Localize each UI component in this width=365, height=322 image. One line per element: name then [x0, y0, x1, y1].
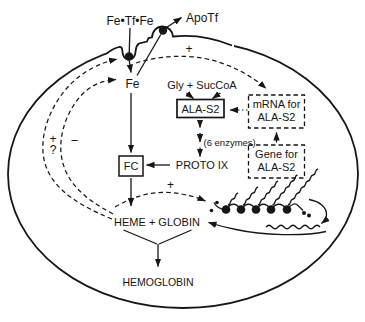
nascent-chain-2: [243, 187, 258, 205]
minus-sign-iron: −: [71, 133, 79, 148]
heme-globin-label: HEME + GLOBIN: [114, 216, 200, 228]
ribosome-dot-5: [283, 205, 292, 214]
precursors-label: Gly + SucCoA: [167, 79, 237, 91]
heme-dot-left-1: [210, 209, 214, 213]
gene-box-label-line2: ALA-S2: [258, 161, 296, 173]
ribosome-dot-1: [222, 205, 231, 214]
nascent-chain-1: [228, 193, 238, 205]
globin-return-arrow: [209, 223, 327, 235]
plus-sign-translation: +: [167, 178, 174, 192]
released-globin-squiggle: [266, 225, 320, 229]
substrate-arrow-right: [213, 93, 221, 99]
globin-release-arrow: [309, 200, 327, 224]
transferrin-receptor-exit-dot: [159, 26, 167, 34]
heme-to-translation-curve: [115, 192, 206, 207]
combine-line-left: [124, 230, 158, 244]
fc-label: FC: [124, 160, 139, 172]
gene-box-label-line1: Gene for: [255, 148, 298, 160]
heme-dot-right-1: [302, 211, 306, 215]
transferrin-receptor-pit-dot: [125, 52, 133, 60]
query-sign-uptake: ?: [50, 143, 57, 157]
ribosome-dot-4: [267, 205, 276, 214]
proto-ix-label: PROTO IX: [176, 159, 229, 171]
mrna-box-label-line2: ALA-S2: [258, 111, 296, 123]
figure-canvas: Fe•Tf•Fe ApoTf Fe + Gly + SucCoA ALA-S2 …: [0, 0, 365, 322]
hemoglobin-label: HEMOGLOBIN: [122, 276, 193, 288]
apo-transferrin-label: ApoTf: [186, 11, 219, 25]
ribosome-dot-3: [252, 205, 261, 214]
holo-transferrin-label: Fe•Tf•Fe: [106, 14, 153, 28]
ribosome-dot-2: [237, 205, 246, 214]
heme-dot-right-2: [307, 214, 311, 218]
plus-sign-mrna: +: [185, 42, 192, 56]
nascent-chain-4: [273, 175, 298, 205]
iron-label: Fe: [125, 77, 139, 91]
six-enzymes-label: (6 enzymes): [204, 137, 256, 148]
alas2-label: ALA-S2: [182, 103, 220, 115]
substrate-arrow-left: [187, 93, 194, 99]
combine-line-right: [159, 230, 192, 244]
mrna-box-label-line1: mRNA for: [253, 98, 301, 110]
holo-transferrin-binding-line: [129, 28, 130, 54]
heme-synthesis-diagram: Fe•Tf•Fe ApoTf Fe + Gly + SucCoA ALA-S2 …: [0, 0, 365, 322]
heme-dot-left-2: [215, 201, 219, 205]
